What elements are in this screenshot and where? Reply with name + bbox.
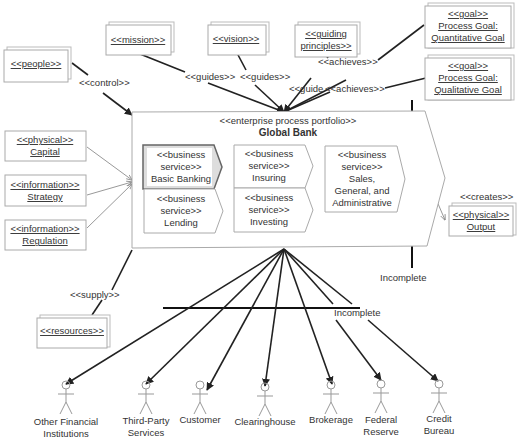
svg-text:<<resources>>: <<resources>> (40, 325, 104, 336)
label-guide: <<guide (289, 83, 323, 94)
svg-text:Other Financial: Other Financial (34, 416, 98, 427)
uml-diagram: <<people>> <<mission>> <<vision>> <<guid… (0, 0, 519, 445)
svg-text:<<business: <<business (157, 149, 206, 160)
actor-third-party-services[interactable]: Third-Party Services (123, 381, 170, 438)
label-guides-1: <<guides>> (185, 71, 236, 82)
object-guiding-principles[interactable]: <<guiding principles>> (295, 22, 360, 57)
svg-text:<<vision>>: <<vision>> (213, 33, 260, 44)
svg-text:<<guiding: <<guiding (305, 28, 347, 39)
svg-text:Process Goal:: Process Goal: (438, 72, 498, 83)
svg-text:Lending: Lending (164, 217, 198, 228)
svg-text:Output: Output (467, 221, 496, 232)
svg-text:Federal: Federal (365, 414, 397, 425)
service-lending[interactable]: <<business service>> Lending (144, 189, 223, 233)
svg-text:Credit: Credit (426, 413, 452, 424)
svg-text:<<mission>>: <<mission>> (111, 34, 166, 45)
svg-text:service>>: service>> (341, 161, 383, 172)
service-investing[interactable]: <<business service>> Investing (234, 188, 313, 232)
label-control: <<control>> (79, 77, 130, 88)
svg-text:Customer: Customer (179, 414, 220, 425)
svg-text:<<physical>>: <<physical>> (453, 209, 510, 220)
svg-text:General, and: General, and (335, 185, 390, 196)
svg-text:Strategy: Strategy (27, 191, 63, 202)
label-incomplete-2: Incomplete (334, 307, 380, 318)
svg-text:Administrative: Administrative (332, 197, 392, 208)
label-incomplete-1: Incomplete (380, 272, 426, 283)
svg-text:<<physical>>: <<physical>> (17, 134, 74, 145)
portfolio-title: Global Bank (259, 127, 318, 138)
svg-text:Third-Party: Third-Party (123, 415, 170, 426)
svg-text:<<business: <<business (338, 149, 387, 160)
svg-text:Insuring: Insuring (252, 172, 286, 183)
actors: Other Financial Institutions Third-Party… (34, 380, 455, 439)
svg-text:Qualitative Goal: Qualitative Goal (434, 84, 502, 95)
svg-text:Bureau: Bureau (424, 425, 455, 436)
object-vision[interactable]: <<vision>> (208, 22, 269, 55)
svg-text:<<business: <<business (245, 148, 294, 159)
service-insuring[interactable]: <<business service>> Insuring (234, 145, 313, 188)
actor-clearinghouse[interactable]: Clearinghouse (234, 383, 295, 427)
object-goal-quantitative[interactable]: <<goal>> Process Goal: Quantitative Goal (425, 3, 514, 48)
object-mission[interactable]: <<mission>> (106, 22, 174, 55)
object-people[interactable]: <<people>> (4, 47, 71, 82)
label-supply: <<supply>> (70, 289, 120, 300)
label-achieves-2: <<achieves>> (325, 83, 385, 94)
svg-text:<<business: <<business (245, 192, 294, 203)
actor-customer[interactable]: Customer (179, 381, 220, 425)
object-capital[interactable]: <<physical>> Capital (5, 131, 86, 161)
svg-text:service>>: service>> (248, 204, 290, 215)
enterprise-process-portfolio[interactable]: <<enterprise process portfolio>> Global … (132, 111, 445, 248)
svg-text:<<goal>>: <<goal>> (448, 8, 489, 19)
svg-text:Investing: Investing (250, 216, 288, 227)
actor-credit-bureau[interactable]: Credit Bureau (424, 380, 455, 436)
svg-text:service>>: service>> (160, 161, 202, 172)
label-achieves-1: <<achieves>> (318, 56, 378, 67)
label-creates: <<creates>> (460, 191, 514, 202)
svg-text:Reserve: Reserve (363, 426, 398, 437)
service-sga[interactable]: <<business service>> Sales, General, and… (325, 146, 405, 212)
svg-text:Clearinghouse: Clearinghouse (234, 416, 295, 427)
svg-text:Quantitative Goal: Quantitative Goal (431, 32, 504, 43)
svg-text:service>>: service>> (248, 160, 290, 171)
svg-text:Capital: Capital (30, 146, 60, 157)
portfolio-stereotype: <<enterprise process portfolio>> (220, 115, 357, 126)
svg-text:Regulation: Regulation (22, 235, 67, 246)
svg-text:Sales,: Sales, (349, 173, 375, 184)
object-goal-qualitative[interactable]: <<goal>> Process Goal: Qualitative Goal (425, 55, 514, 100)
svg-text:Institutions: Institutions (43, 428, 89, 439)
svg-text:<<business: <<business (157, 193, 206, 204)
actor-other-financial-institutions[interactable]: Other Financial Institutions (34, 381, 98, 439)
svg-text:principles>>: principles>> (300, 40, 352, 51)
actor-brokerage[interactable]: Brokerage (309, 381, 353, 425)
svg-text:Services: Services (128, 427, 165, 438)
service-basic-banking[interactable]: <<business service>> Basic Banking (143, 145, 222, 189)
object-resources[interactable]: <<resources>> (37, 315, 110, 348)
object-regulation[interactable]: <<information>> Regulation (5, 220, 86, 250)
label-guides-2: <<guides>> (240, 71, 291, 82)
svg-text:<<people>>: <<people>> (11, 58, 62, 69)
svg-text:<<information>>: <<information>> (10, 179, 80, 190)
object-strategy[interactable]: <<information>> Strategy (5, 175, 86, 206)
object-output[interactable]: <<physical>> Output (449, 203, 516, 236)
svg-text:Basic Banking: Basic Banking (151, 173, 211, 184)
svg-text:service>>: service>> (160, 205, 202, 216)
svg-text:<<goal>>: <<goal>> (448, 60, 489, 71)
svg-text:<<information>>: <<information>> (10, 223, 80, 234)
actor-federal-reserve[interactable]: Federal Reserve (363, 380, 398, 437)
svg-text:Process Goal:: Process Goal: (438, 20, 498, 31)
svg-text:Brokerage: Brokerage (309, 414, 353, 425)
